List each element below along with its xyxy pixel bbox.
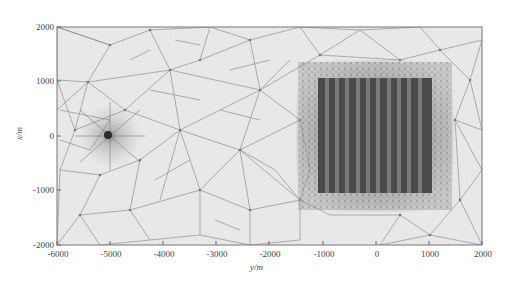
y-tick-label: 2000 bbox=[4, 22, 54, 32]
mesh-plot bbox=[0, 0, 512, 284]
x-tick-label: 2000 bbox=[461, 249, 505, 259]
y-axis-title: x/m bbox=[14, 127, 24, 140]
mesh-figure: 2000 1000 0 -1000 -2000 -6000 -5000 -400… bbox=[0, 0, 512, 284]
x-tick-label: -6000 bbox=[36, 249, 80, 259]
x-tick-label: -3000 bbox=[195, 249, 239, 259]
x-tick-label: 1000 bbox=[408, 249, 452, 259]
y-tick-label: -1000 bbox=[4, 185, 54, 195]
y-tick-label: 1000 bbox=[4, 76, 54, 86]
x-axis-title: y/m bbox=[250, 262, 263, 272]
x-tick-label: -4000 bbox=[142, 249, 186, 259]
x-tick-label: -2000 bbox=[248, 249, 292, 259]
refined-block bbox=[296, 60, 454, 212]
x-tick-label: 0 bbox=[355, 249, 399, 259]
x-tick-label: -5000 bbox=[89, 249, 133, 259]
y-tick-label: 0 bbox=[4, 131, 54, 141]
x-tick-label: -1000 bbox=[302, 249, 346, 259]
